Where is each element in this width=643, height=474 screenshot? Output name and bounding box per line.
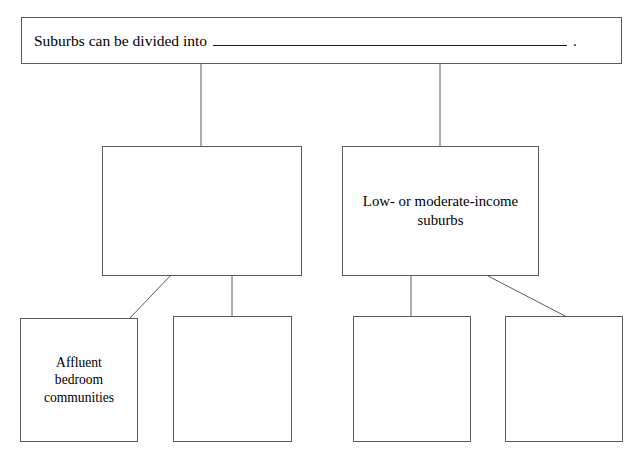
mid-level-box-right: Low- or moderate-income suburbs [342,146,539,276]
leaf-box-2[interactable] [173,316,292,442]
root-prompt-box: Suburbs can be divided into . [21,17,622,64]
root-prompt-row: Suburbs can be divided into . [34,31,577,49]
diagram-canvas: Suburbs can be divided into . Low- or mo… [0,0,643,474]
leaf-box-3[interactable] [353,316,471,442]
root-prompt-label: Suburbs can be divided into [34,32,207,50]
connector-mid-right-to-leaf-4 [488,276,567,317]
connector-mid-left-to-leaf-1 [130,276,170,318]
root-prompt-period: . [573,32,577,50]
mid-level-box-left[interactable] [102,146,302,276]
leaf-box-1: Affluent bedroom communities [20,318,138,442]
leaf-box-4[interactable] [505,316,623,442]
root-answer-blank[interactable] [213,31,567,45]
mid-level-box-right-label: Low- or moderate-income suburbs [363,192,518,230]
leaf-box-1-label: Affluent bedroom communities [44,354,114,406]
